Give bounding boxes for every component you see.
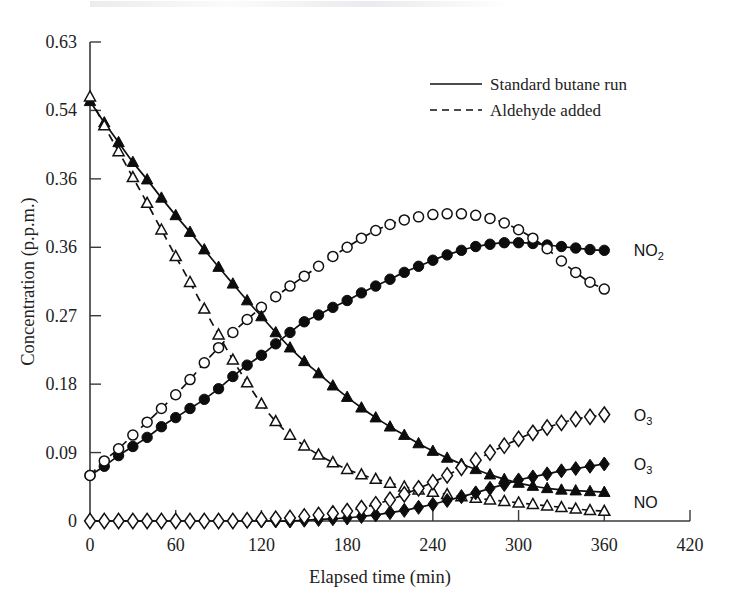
series-marker-1 xyxy=(328,251,338,261)
series-marker-4 xyxy=(428,497,438,511)
series-marker-0 xyxy=(385,274,395,284)
series-marker-0 xyxy=(256,350,266,360)
series-marker-0 xyxy=(471,241,481,251)
series-marker-0 xyxy=(571,243,581,253)
x-tick-label: 0 xyxy=(86,535,95,555)
series-marker-0 xyxy=(213,384,223,394)
series-marker-1 xyxy=(585,277,595,287)
y-tick-label: 0.09 xyxy=(46,443,78,463)
series-marker-0 xyxy=(142,432,152,442)
x-tick-label: 180 xyxy=(334,535,361,555)
series-marker-5 xyxy=(385,492,396,507)
series-marker-1 xyxy=(299,271,309,281)
series-line-0 xyxy=(90,243,604,476)
series-marker-1 xyxy=(156,403,166,413)
legend-group: Standard butane runAldehyde added xyxy=(430,75,627,120)
series-marker-1 xyxy=(456,209,466,219)
series-marker-2 xyxy=(384,421,395,431)
series-marker-0 xyxy=(371,281,381,291)
series-marker-3 xyxy=(184,276,195,286)
series-marker-5 xyxy=(213,513,224,528)
legend-label-0: Standard butane run xyxy=(490,75,627,94)
series-marker-2 xyxy=(399,429,410,439)
series-marker-1 xyxy=(171,390,181,400)
series-marker-3 xyxy=(313,449,324,459)
y-tick-label: 0.27 xyxy=(46,306,78,326)
curves-group xyxy=(90,97,604,521)
series-marker-0 xyxy=(413,261,423,271)
x-axis-title: Elapsed time (min) xyxy=(309,567,451,588)
series-marker-3 xyxy=(327,457,338,467)
series-marker-2 xyxy=(341,391,352,401)
series-marker-4 xyxy=(585,459,595,473)
x-tick-label: 420 xyxy=(677,535,704,555)
series-marker-3 xyxy=(384,477,395,487)
series-marker-1 xyxy=(85,470,95,480)
series-marker-5 xyxy=(427,475,438,490)
series-marker-3 xyxy=(227,354,238,364)
series-marker-1 xyxy=(599,284,609,294)
series-marker-0 xyxy=(128,441,138,451)
series-marker-1 xyxy=(285,281,295,291)
markers-group xyxy=(84,91,610,529)
series-marker-1 xyxy=(128,430,138,440)
legend-label-1: Aldehyde added xyxy=(490,101,601,120)
series-marker-0 xyxy=(513,238,523,248)
x-tick-label: 360 xyxy=(591,535,618,555)
series-marker-4 xyxy=(556,464,566,478)
series-marker-0 xyxy=(313,310,323,320)
y-tick-label: 0 xyxy=(68,511,77,531)
series-marker-0 xyxy=(428,255,438,265)
series-marker-3 xyxy=(284,429,295,439)
series-labels-group: NO2O3O3NO xyxy=(634,242,664,511)
series-marker-0 xyxy=(356,288,366,298)
series-marker-1 xyxy=(399,215,409,225)
series-marker-5 xyxy=(370,497,381,512)
series-marker-0 xyxy=(556,241,566,251)
series-marker-3 xyxy=(256,398,267,408)
series-marker-0 xyxy=(399,267,409,277)
series-marker-2 xyxy=(427,445,438,455)
series-marker-1 xyxy=(214,343,224,353)
series-marker-0 xyxy=(442,250,452,260)
series-marker-3 xyxy=(242,377,253,387)
series-marker-1 xyxy=(228,327,238,337)
series-marker-4 xyxy=(599,457,609,471)
series-marker-1 xyxy=(528,233,538,243)
series-marker-4 xyxy=(528,470,538,484)
series-marker-1 xyxy=(114,444,124,454)
series-marker-3 xyxy=(356,469,367,479)
series-marker-1 xyxy=(342,242,352,252)
series-marker-4 xyxy=(399,503,409,517)
series-marker-3 xyxy=(84,91,95,101)
series-marker-1 xyxy=(99,456,109,466)
x-tick-label: 300 xyxy=(505,535,532,555)
series-marker-4 xyxy=(485,481,495,495)
series-marker-1 xyxy=(571,267,581,277)
series-marker-1 xyxy=(414,212,424,222)
series-marker-5 xyxy=(142,513,153,528)
series-marker-3 xyxy=(142,197,153,207)
series-marker-5 xyxy=(85,513,96,528)
series-marker-1 xyxy=(185,375,195,385)
series-marker-0 xyxy=(499,238,509,248)
series-marker-3 xyxy=(170,251,181,261)
series-annotation-2: O3 xyxy=(634,456,653,476)
series-marker-3 xyxy=(342,463,353,473)
series-marker-5 xyxy=(470,453,481,468)
series-marker-5 xyxy=(242,513,253,528)
concentration-vs-time-line-chart: 00.090.180.270.360.360.540.6306012018024… xyxy=(0,0,752,608)
series-marker-1 xyxy=(442,209,452,219)
series-marker-0 xyxy=(342,295,352,305)
series-annotation-3: NO xyxy=(634,494,658,511)
series-marker-3 xyxy=(213,329,224,339)
series-marker-5 xyxy=(513,431,524,446)
series-marker-1 xyxy=(385,219,395,229)
series-marker-5 xyxy=(570,412,581,427)
series-marker-1 xyxy=(471,210,481,220)
y-axis-title: Concentration (p.p.m.) xyxy=(18,197,39,366)
series-marker-1 xyxy=(428,210,438,220)
x-tick-label: 120 xyxy=(248,535,275,555)
series-annotation-0: NO2 xyxy=(634,242,664,262)
y-tick-label: 0.36 xyxy=(46,237,78,257)
